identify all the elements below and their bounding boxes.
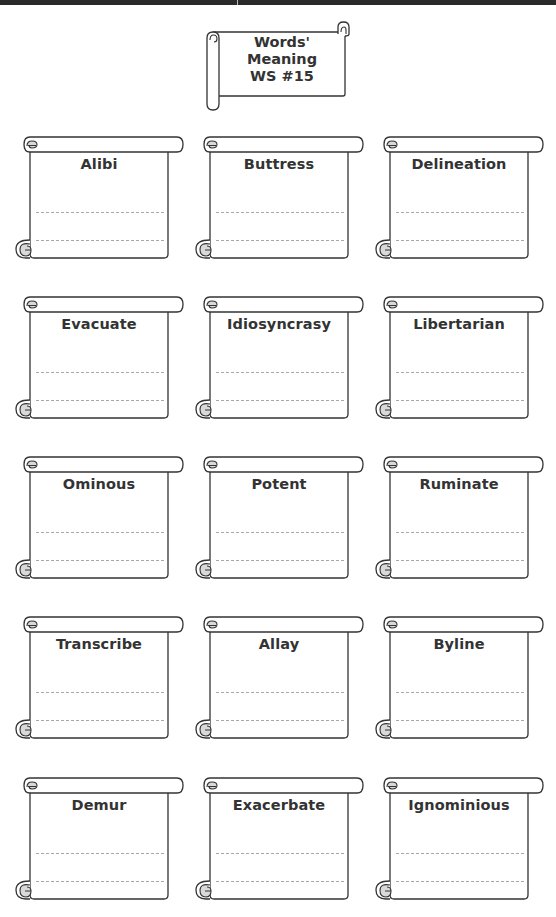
- answer-line-1[interactable]: [36, 692, 164, 693]
- title-line-3: WS #15: [217, 68, 347, 85]
- title-scroll-banner: Words' Meaning WS #15: [205, 20, 353, 110]
- answer-line-2[interactable]: [396, 560, 524, 561]
- answer-line-1[interactable]: [216, 692, 344, 693]
- answer-line-2[interactable]: [216, 240, 344, 241]
- answer-line-1[interactable]: [396, 372, 524, 373]
- answer-line-2[interactable]: [396, 400, 524, 401]
- answer-line-1[interactable]: [216, 532, 344, 533]
- word-card: Buttress: [194, 132, 366, 258]
- answer-line-1[interactable]: [396, 212, 524, 213]
- answer-line-2[interactable]: [36, 881, 164, 882]
- answer-line-1[interactable]: [36, 853, 164, 854]
- answer-line-1[interactable]: [36, 212, 164, 213]
- card-word: Demur: [30, 797, 168, 813]
- word-card: Ominous: [14, 452, 186, 578]
- answer-line-1[interactable]: [216, 372, 344, 373]
- answer-line-1[interactable]: [396, 853, 524, 854]
- answer-line-2[interactable]: [216, 881, 344, 882]
- card-word: Ominous: [30, 476, 168, 492]
- worksheet-title: Words' Meaning WS #15: [217, 34, 347, 85]
- word-card: Libertarian: [374, 292, 546, 418]
- answer-line-1[interactable]: [216, 212, 344, 213]
- word-card: Exacerbate: [194, 773, 366, 899]
- answer-line-2[interactable]: [36, 240, 164, 241]
- word-card: Byline: [374, 612, 546, 738]
- card-word: Evacuate: [30, 316, 168, 332]
- word-card: Delineation: [374, 132, 546, 258]
- card-word: Byline: [390, 636, 528, 652]
- answer-line-2[interactable]: [216, 720, 344, 721]
- answer-line-1[interactable]: [36, 532, 164, 533]
- answer-line-1[interactable]: [216, 853, 344, 854]
- word-card: Transcribe: [14, 612, 186, 738]
- answer-line-2[interactable]: [36, 400, 164, 401]
- card-word: Exacerbate: [210, 797, 348, 813]
- card-word: Allay: [210, 636, 348, 652]
- answer-line-2[interactable]: [396, 720, 524, 721]
- answer-line-2[interactable]: [396, 240, 524, 241]
- answer-line-2[interactable]: [396, 881, 524, 882]
- card-word: Potent: [210, 476, 348, 492]
- card-word: Buttress: [210, 156, 348, 172]
- word-card: Potent: [194, 452, 366, 578]
- card-word: Libertarian: [390, 316, 528, 332]
- answer-line-2[interactable]: [216, 560, 344, 561]
- answer-line-1[interactable]: [396, 532, 524, 533]
- card-word: Ignominious: [390, 797, 528, 813]
- top-bar-mark: [237, 0, 238, 5]
- word-card: Allay: [194, 612, 366, 738]
- card-word: Alibi: [30, 156, 168, 172]
- word-card: Demur: [14, 773, 186, 899]
- card-word: Idiosyncrasy: [210, 316, 348, 332]
- word-card: Evacuate: [14, 292, 186, 418]
- word-card: Idiosyncrasy: [194, 292, 366, 418]
- title-line-1: Words': [217, 34, 347, 51]
- top-dark-bar: [0, 0, 556, 5]
- answer-line-2[interactable]: [36, 720, 164, 721]
- word-card: Alibi: [14, 132, 186, 258]
- answer-line-2[interactable]: [216, 400, 344, 401]
- answer-line-1[interactable]: [36, 372, 164, 373]
- word-card: Ruminate: [374, 452, 546, 578]
- word-card: Ignominious: [374, 773, 546, 899]
- answer-line-2[interactable]: [36, 560, 164, 561]
- card-word: Transcribe: [30, 636, 168, 652]
- title-line-2: Meaning: [217, 51, 347, 68]
- card-word: Delineation: [390, 156, 528, 172]
- answer-line-1[interactable]: [396, 692, 524, 693]
- card-word: Ruminate: [390, 476, 528, 492]
